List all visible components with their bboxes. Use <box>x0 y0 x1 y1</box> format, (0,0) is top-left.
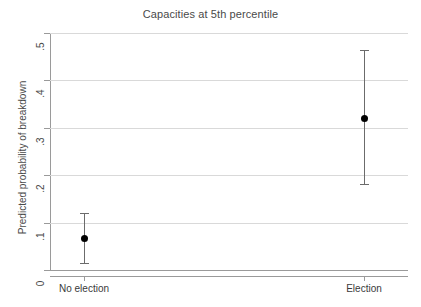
x-axis-line <box>50 276 408 277</box>
chart-container: Capacities at 5th percentile Predicted p… <box>0 0 421 307</box>
y-tick-label-0.4: .4 <box>35 81 46 107</box>
x-tick-no-election <box>84 276 85 281</box>
gridline-0.2 <box>50 175 408 176</box>
gridline-0.5 <box>50 33 408 34</box>
gridline-0.1 <box>50 223 408 224</box>
x-tick-election <box>364 276 365 281</box>
error-bar-cap-upper-no-election <box>80 213 89 214</box>
error-bar-cap-upper-election <box>360 50 369 51</box>
data-point-election <box>361 115 368 122</box>
y-tick-label-0.5: .5 <box>35 34 46 60</box>
plot-area <box>50 33 408 270</box>
x-tick-label-no-election: No election <box>24 283 144 294</box>
error-bar-cap-lower-no-election <box>80 263 89 264</box>
chart-title: Capacities at 5th percentile <box>0 8 421 20</box>
x-tick-label-election: Election <box>304 283 421 294</box>
gridline-0.4 <box>50 80 408 81</box>
y-tick-label-0.3: .3 <box>35 129 46 155</box>
data-point-no-election <box>81 235 88 242</box>
y-tick-label-0.1: .1 <box>35 224 46 250</box>
gridline-zero <box>50 270 408 271</box>
y-tick-label-0.2: .2 <box>35 176 46 202</box>
gridline-0.3 <box>50 128 408 129</box>
y-axis-title: Predicted probability of breakdown <box>17 73 28 243</box>
error-bar-cap-lower-election <box>360 184 369 185</box>
